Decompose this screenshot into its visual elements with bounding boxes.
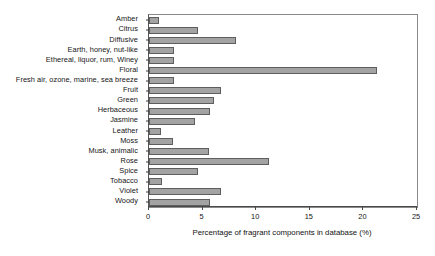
bar-slot (149, 136, 417, 146)
bar (149, 27, 198, 34)
y-axis-tick (146, 141, 149, 142)
bars-layer (149, 15, 417, 207)
y-axis-tick (146, 202, 149, 203)
x-axis-tick (202, 206, 203, 210)
bar-slot (149, 126, 417, 136)
x-axis-tick-label: 25 (412, 212, 420, 221)
bar (149, 67, 377, 74)
bar-slot (149, 76, 417, 86)
category-label: Moss (0, 135, 142, 145)
bar (149, 57, 174, 64)
y-axis-tick (146, 60, 149, 61)
x-axis-tick-label: 5 (200, 212, 204, 221)
category-axis-labels: AmberCitrusDiffusiveEarth, honey, nut-li… (0, 14, 142, 206)
plot-area (148, 14, 418, 208)
bar (149, 47, 174, 54)
bar (149, 138, 173, 145)
y-axis-tick (146, 171, 149, 172)
category-label: Ethereal, liquor, rum, Winey (0, 54, 142, 64)
y-axis-tick (146, 20, 149, 21)
category-label: Diffusive (0, 34, 142, 44)
x-axis-tick (255, 206, 256, 210)
category-label: Spice (0, 166, 142, 176)
category-label: Floral (0, 65, 142, 75)
x-axis-tick-label: 20 (358, 212, 366, 221)
horizontal-bar-chart: AmberCitrusDiffusiveEarth, honey, nut-li… (0, 0, 435, 256)
bar-slot (149, 96, 417, 106)
bar-slot (149, 116, 417, 126)
bar-slot (149, 187, 417, 197)
bar (149, 87, 221, 94)
bar (149, 168, 198, 175)
y-axis-tick (146, 191, 149, 192)
bar-slot (149, 66, 417, 76)
y-axis-tick (146, 30, 149, 31)
category-label: Herbaceous (0, 105, 142, 115)
x-axis-title: Percentage of fragrant components in dat… (148, 228, 416, 237)
y-axis-tick (146, 70, 149, 71)
bar (149, 148, 209, 155)
x-axis-tick (416, 206, 417, 210)
y-axis-tick (146, 121, 149, 122)
bar (149, 158, 269, 165)
bar (149, 128, 161, 135)
category-label: Rose (0, 156, 142, 166)
category-label: Amber (0, 14, 142, 24)
bar-slot (149, 106, 417, 116)
category-label: Jasmine (0, 115, 142, 125)
bar-slot (149, 146, 417, 156)
bar-slot (149, 177, 417, 187)
x-axis: 0510152025 (148, 206, 416, 207)
y-axis-tick (146, 161, 149, 162)
category-label: Earth, honey, nut-like (0, 44, 142, 54)
category-label: Fruit (0, 85, 142, 95)
category-label: Musk, animalic (0, 145, 142, 155)
category-label: Fresh air, ozone, marine, sea breeze (0, 75, 142, 85)
x-axis-tick-label: 10 (251, 212, 259, 221)
category-label: Woody (0, 196, 142, 206)
category-label: Citrus (0, 24, 142, 34)
x-axis-tick (362, 206, 363, 210)
y-axis-tick (146, 50, 149, 51)
bar (149, 188, 221, 195)
bar (149, 97, 214, 104)
bar-slot (149, 55, 417, 65)
x-axis-tick-label: 15 (305, 212, 313, 221)
y-axis-tick (146, 181, 149, 182)
x-axis-tick (309, 206, 310, 210)
bar-slot (149, 15, 417, 25)
bar (149, 108, 210, 115)
bar-slot (149, 167, 417, 177)
x-axis-tick-label: 0 (146, 212, 150, 221)
y-axis-tick (146, 80, 149, 81)
y-axis-tick (146, 90, 149, 91)
bar (149, 37, 236, 44)
bar-slot (149, 45, 417, 55)
y-axis-tick (146, 40, 149, 41)
bar-slot (149, 25, 417, 35)
bar (149, 199, 210, 206)
y-axis-tick (146, 131, 149, 132)
x-axis-tick (148, 206, 149, 210)
category-label: Tobacco (0, 176, 142, 186)
bar (149, 17, 159, 24)
bar-slot (149, 157, 417, 167)
bar-slot (149, 86, 417, 96)
category-label: Green (0, 95, 142, 105)
bar-slot (149, 35, 417, 45)
bar (149, 77, 174, 84)
y-axis-tick (146, 151, 149, 152)
category-label: Leather (0, 125, 142, 135)
bar (149, 118, 195, 125)
y-axis-tick (146, 100, 149, 101)
y-axis-tick (146, 111, 149, 112)
category-label: Violet (0, 186, 142, 196)
bar (149, 178, 162, 185)
